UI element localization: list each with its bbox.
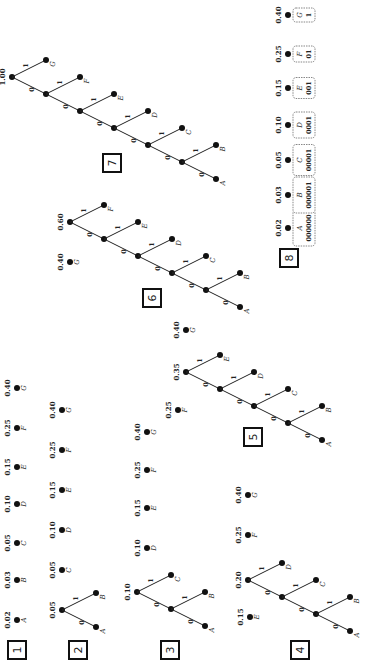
symbol-label: E bbox=[296, 85, 304, 91]
probability-label: 0.40 bbox=[274, 6, 283, 23]
probability-label: 0.25 bbox=[48, 441, 57, 458]
edge-bit-right: 1 bbox=[196, 358, 204, 363]
edge-bit-right: 1 bbox=[158, 131, 166, 136]
edge-bit-left: 0 bbox=[332, 624, 340, 629]
symbol-label: F bbox=[20, 424, 28, 431]
svg-text:8: 8 bbox=[283, 255, 296, 262]
edge-bit-left: 0 bbox=[270, 416, 278, 421]
codeword-label: 000001 bbox=[305, 181, 313, 208]
codeword-label: 000000 bbox=[305, 214, 313, 242]
symbol-label: G bbox=[189, 327, 197, 333]
edge-bit-right: 1 bbox=[258, 566, 266, 571]
symbol-label: B bbox=[296, 192, 304, 198]
symbol-label: F bbox=[107, 205, 115, 212]
edge-bit-left: 0 bbox=[130, 138, 138, 143]
edge-bit-right: 1 bbox=[72, 596, 80, 601]
edge-bit-right: 1 bbox=[181, 595, 189, 600]
edge-bit-right: 1 bbox=[298, 409, 306, 414]
symbol-label: A bbox=[208, 627, 216, 633]
symbol-label: E bbox=[117, 95, 125, 101]
step-label-1: 1 bbox=[8, 641, 26, 659]
edge-bit-right: 1 bbox=[80, 208, 88, 213]
probability-label: 0.40 bbox=[3, 379, 12, 396]
probability-label: 0.10 bbox=[3, 495, 12, 512]
edge-bit-left: 0 bbox=[202, 382, 210, 387]
edge-bit-right: 1 bbox=[147, 578, 155, 583]
symbol-label: F bbox=[65, 446, 73, 453]
probability-label: 0.15 bbox=[274, 79, 283, 96]
symbol-label: G bbox=[73, 259, 81, 265]
symbol-label: E bbox=[20, 464, 28, 470]
symbol-label: B bbox=[353, 598, 361, 604]
symbol-label: B bbox=[208, 593, 216, 599]
edge-bit-right: 1 bbox=[114, 225, 122, 230]
edge-bit-right: 1 bbox=[148, 242, 156, 247]
symbol-label: D bbox=[20, 501, 28, 508]
codeword-label: 0001 bbox=[305, 116, 313, 134]
probability-label: 0.02 bbox=[274, 219, 283, 236]
edge-bit-left: 0 bbox=[264, 590, 272, 595]
symbol-label: F bbox=[251, 531, 259, 538]
svg-text:2: 2 bbox=[72, 647, 85, 654]
symbol-label: C bbox=[209, 257, 217, 263]
edge-bit-right: 1 bbox=[292, 583, 300, 588]
leaf-node-F bbox=[285, 51, 291, 57]
symbol-label: D bbox=[65, 527, 73, 534]
leaf-node-D bbox=[285, 122, 291, 128]
probability-label: 0.03 bbox=[3, 571, 12, 588]
symbol-label: A bbox=[353, 632, 361, 638]
edge-bit-left: 0 bbox=[304, 433, 312, 438]
svg-text:7: 7 bbox=[106, 160, 119, 167]
edge-bit-left: 0 bbox=[28, 87, 36, 92]
symbol-label: C bbox=[65, 567, 73, 573]
symbol-label: G bbox=[296, 12, 304, 18]
probability-label: 0.03 bbox=[274, 186, 283, 203]
symbol-label: D bbox=[175, 240, 183, 247]
edge-bit-left: 0 bbox=[164, 155, 172, 160]
symbol-label: D bbox=[285, 564, 293, 571]
probability-label: 0.25 bbox=[133, 461, 142, 478]
symbol-label: B bbox=[99, 594, 107, 600]
probability-label: 0.02 bbox=[3, 611, 12, 628]
probability-label: 0.25 bbox=[3, 419, 12, 436]
probability-label: 0.25 bbox=[234, 526, 243, 543]
probability-label: 0.05 bbox=[274, 151, 283, 168]
symbol-label: G bbox=[150, 429, 158, 435]
symbol-label: B bbox=[243, 274, 251, 280]
leaf-node-C bbox=[285, 157, 291, 163]
edge-bit-left: 0 bbox=[96, 121, 104, 126]
symbol-label: G bbox=[65, 407, 73, 413]
edge-bit-left: 0 bbox=[198, 172, 206, 177]
probability-label: 0.40 bbox=[48, 401, 57, 418]
probability-label: 0.10 bbox=[274, 116, 283, 133]
edge-bit-right: 1 bbox=[326, 600, 334, 605]
edge-bit-right: 1 bbox=[124, 114, 132, 119]
probability-label: 0.40 bbox=[56, 253, 65, 270]
symbol-label: D bbox=[296, 122, 304, 129]
step-label-8: 8 bbox=[280, 249, 298, 267]
symbol-label: G bbox=[49, 61, 57, 67]
symbol-label: A bbox=[243, 308, 251, 314]
codeword-label: 01 bbox=[305, 49, 313, 58]
symbol-label: A bbox=[296, 225, 304, 231]
step-label-3: 3 bbox=[161, 641, 179, 659]
edge-bit-left: 0 bbox=[154, 266, 162, 271]
symbol-label: D bbox=[151, 112, 159, 119]
node-probability-label: 1.00 bbox=[0, 68, 7, 85]
symbol-label: F bbox=[150, 466, 158, 473]
symbol-label: F bbox=[181, 406, 189, 413]
symbol-label: G bbox=[251, 492, 259, 498]
symbol-label: D bbox=[150, 545, 158, 552]
codeword-label: 001 bbox=[305, 81, 313, 95]
symbol-label: G bbox=[20, 385, 28, 391]
node-probability-label: 0.20 bbox=[234, 571, 243, 588]
leaf-node-E bbox=[285, 85, 291, 91]
symbol-label: D bbox=[257, 373, 265, 380]
leaf-node-A bbox=[285, 225, 291, 231]
probability-label: 0.40 bbox=[133, 423, 142, 440]
symbol-label: C bbox=[20, 540, 28, 546]
symbol-label: E bbox=[253, 614, 261, 620]
probability-label: 0.25 bbox=[164, 401, 173, 418]
edge-bit-right: 1 bbox=[230, 375, 238, 380]
edge-bit-right: 1 bbox=[216, 276, 224, 281]
